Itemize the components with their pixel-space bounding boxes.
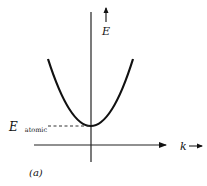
dispersion-diagram: E E atomic k (a)	[0, 0, 207, 186]
x-axis-label: k	[180, 140, 187, 153]
y-axis-label: E	[101, 25, 110, 38]
e-atomic-label: E atomic	[8, 117, 47, 134]
panel-label: (a)	[29, 167, 43, 178]
